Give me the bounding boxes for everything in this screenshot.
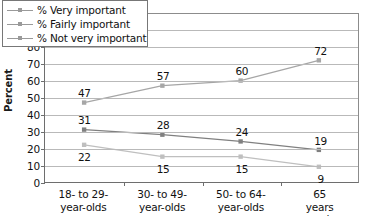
y-tick-label: 70 [14,58,40,70]
legend-item-fairly-important: % Fairly important [7,17,147,31]
y-tick-mark [41,183,45,184]
y-axis-title-text: Percent [3,69,14,112]
x-axis-category-labels: 18- to 29-year-olds30- to 49-year-olds50… [44,186,359,216]
x-category-label-line: year-olds [137,201,187,214]
y-tick-label: 40 [14,109,40,121]
x-category-label: 50- to 64-year-olds [216,188,266,213]
x-category-label-line: 50- to 64- [216,188,266,201]
legend-label: % Not very important [37,32,146,44]
data-point-marker [82,100,86,104]
y-tick-label: 0 [14,177,40,189]
data-label: 15 [157,163,170,175]
gridline [45,47,358,48]
data-point-marker [238,154,242,158]
gridline [45,166,358,167]
data-point-marker [160,154,164,158]
y-tick-mark [41,98,45,99]
legend-marker-icon [7,32,33,44]
x-category-label-line: 65 years and [300,188,339,216]
legend-marker-icon [7,18,33,30]
y-tick-mark [41,81,45,82]
y-tick-label: 50 [14,92,40,104]
data-label: 47 [78,87,91,99]
gridline [45,115,358,116]
x-category-label: 18- to 29-year-olds [59,188,109,213]
x-category-label: 30- to 49-year-olds [137,188,187,213]
data-label: 28 [157,119,170,131]
gridline [45,98,358,99]
x-category-label: 65 years andolder [300,188,339,216]
y-tick-mark [41,64,45,65]
y-tick-mark [41,149,45,150]
data-label: 57 [157,70,170,82]
chart-figure: Percent 1009080706050403020100 475760723… [0,0,372,216]
data-label: 15 [235,163,248,175]
legend-label: % Fairly important [37,18,130,30]
chart-legend: % Very important % Fairly important % No… [2,0,148,47]
data-label: 24 [235,126,248,138]
y-tick-label: 20 [14,143,40,155]
y-tick-mark [41,166,45,167]
data-label: 22 [78,151,91,163]
y-tick-mark [41,132,45,133]
data-point-marker [82,143,86,147]
data-label: 19 [314,135,327,147]
legend-item-not-very-important: % Not very important [7,31,147,45]
y-tick-label: 30 [14,126,40,138]
data-point-marker [160,83,164,87]
data-point-marker [317,58,321,62]
gridline [45,149,358,150]
x-category-label-line: 30- to 49- [137,188,187,201]
x-category-label-line: year-olds [216,201,266,214]
data-label: 9 [317,173,323,185]
y-tick-label: 10 [14,160,40,172]
y-tick-mark [41,47,45,48]
y-tick-mark [41,115,45,116]
gridline [45,81,358,82]
data-point-marker [160,132,164,136]
x-category-label-line: 18- to 29- [59,188,109,201]
data-label: 60 [235,65,248,77]
data-label: 31 [78,114,91,126]
data-point-marker [238,139,242,143]
gridline [45,64,358,65]
legend-marker-icon [7,4,33,16]
data-label: 72 [314,45,327,57]
legend-label: % Very important [37,4,126,16]
gridline [45,132,358,133]
x-category-label-line: year-olds [59,201,109,214]
y-tick-label: 60 [14,75,40,87]
legend-item-very-important: % Very important [7,3,147,17]
